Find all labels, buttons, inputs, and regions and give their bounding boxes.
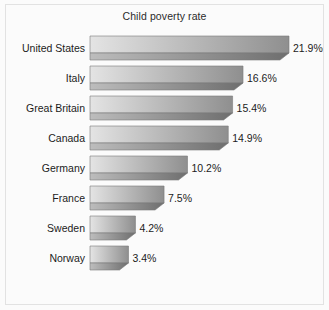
- bar: [90, 216, 135, 242]
- bar: [90, 36, 289, 62]
- value-label: 21.9%: [293, 33, 323, 63]
- category-label: Italy: [0, 63, 85, 93]
- bar-shape: [90, 156, 187, 180]
- bar-top-face: [90, 66, 243, 83]
- bar-top-face: [90, 246, 128, 263]
- value-label: 7.5%: [168, 183, 192, 213]
- bar-row: Norway3.4%: [0, 243, 329, 273]
- value-label: 10.2%: [191, 153, 221, 183]
- plot-area: United States21.9%Italy16.6%Great Britai…: [0, 30, 329, 298]
- bar-side-face: [90, 83, 243, 90]
- bar-shape: [90, 96, 233, 120]
- bar-top-face: [90, 156, 187, 173]
- bar: [90, 96, 233, 122]
- value-label: 3.4%: [132, 243, 156, 273]
- category-label: United States: [0, 33, 85, 63]
- chart-title: Child poverty rate: [0, 10, 329, 22]
- category-label: Canada: [0, 123, 85, 153]
- bar-top-face: [90, 186, 164, 203]
- bar-side-face: [90, 263, 128, 270]
- bar-row: Canada14.9%: [0, 123, 329, 153]
- category-label: Norway: [0, 243, 85, 273]
- value-label: 15.4%: [237, 93, 267, 123]
- bar: [90, 246, 128, 272]
- bar-side-face: [90, 203, 164, 210]
- bar-top-face: [90, 216, 135, 233]
- bar-row: Germany10.2%: [0, 153, 329, 183]
- value-label: 16.6%: [247, 63, 277, 93]
- chart-container: Child poverty rate United States21.9%Ita…: [0, 0, 329, 310]
- value-label: 4.2%: [139, 213, 163, 243]
- value-label: 14.9%: [232, 123, 262, 153]
- bar-shape: [90, 216, 135, 240]
- bar-top-face: [90, 36, 289, 53]
- bar-shape: [90, 246, 128, 270]
- bar-top-face: [90, 126, 228, 143]
- bar-side-face: [90, 173, 187, 180]
- bar: [90, 126, 228, 152]
- bar-row: Sweden4.2%: [0, 213, 329, 243]
- bar-shape: [90, 66, 243, 90]
- bar-shape: [90, 186, 164, 210]
- bar: [90, 66, 243, 92]
- category-label: Great Britain: [0, 93, 85, 123]
- category-label: France: [0, 183, 85, 213]
- bar: [90, 186, 164, 212]
- bar-side-face: [90, 113, 233, 120]
- bar: [90, 156, 187, 182]
- bar-row: United States21.9%: [0, 33, 329, 63]
- bar-side-face: [90, 233, 135, 240]
- bar-row: Italy16.6%: [0, 63, 329, 93]
- bar-side-face: [90, 143, 228, 150]
- bar-row: France7.5%: [0, 183, 329, 213]
- bar-top-face: [90, 96, 233, 113]
- bar-row: Great Britain15.4%: [0, 93, 329, 123]
- category-label: Germany: [0, 153, 85, 183]
- bar-side-face: [90, 53, 289, 60]
- bar-shape: [90, 36, 289, 60]
- category-label: Sweden: [0, 213, 85, 243]
- bar-shape: [90, 126, 228, 150]
